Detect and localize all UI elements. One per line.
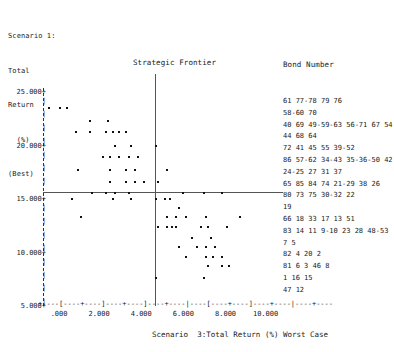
data-point: [66, 107, 68, 109]
data-point: [164, 198, 166, 200]
legend-row: 65 85 84 74 21-29 38 26: [283, 179, 393, 191]
x-axis-tick-labels: .000 2.000 4.000 6.000 8.000 10.000: [38, 310, 278, 318]
data-point: [125, 131, 127, 133]
data-point: [112, 198, 114, 200]
data-point: [102, 156, 104, 158]
data-point: [205, 216, 207, 218]
data-point: [112, 131, 114, 133]
x-axis-label: Scenario 3:Total Return (%) Worst Case: [152, 330, 328, 339]
data-point: [207, 226, 209, 228]
data-point: [203, 192, 205, 194]
data-point: [107, 120, 109, 122]
data-point: [118, 156, 120, 158]
y-axis-tick-label: 10.000+: [0, 249, 46, 257]
y-axis-minor-dash: |: [42, 204, 46, 212]
data-point: [221, 265, 223, 267]
y-axis-minor-dash: |: [42, 177, 46, 185]
data-point: [91, 192, 93, 194]
data-point: [157, 181, 159, 183]
legend-row: 66 18 33 17 13 51: [283, 214, 393, 226]
data-point: [109, 169, 111, 171]
legend-row: 19: [283, 202, 393, 214]
y-axis-minor-dash: |: [42, 124, 46, 132]
data-point: [114, 145, 116, 147]
data-point: [212, 256, 214, 258]
legend-row: 40 69 49-59-63 56-71 67 54: [283, 120, 393, 132]
data-point: [205, 256, 207, 258]
data-point: [155, 198, 157, 200]
y-axis-caption-line-3: Return: [8, 100, 55, 112]
data-point: [48, 107, 50, 109]
bond-number-legend-list: 61 77-78 79 7658-60 7040 69 49-59-63 56-…: [283, 96, 393, 297]
data-point: [171, 226, 173, 228]
data-point: [155, 145, 157, 147]
data-point: [59, 107, 61, 109]
y-axis-caption-line-2: Total: [8, 66, 55, 78]
data-point: [175, 216, 177, 218]
data-point: [71, 198, 73, 200]
data-point: [228, 265, 230, 267]
data-point: [118, 131, 120, 133]
data-point: [89, 120, 91, 122]
data-point: [130, 198, 132, 200]
data-point: [128, 156, 130, 158]
data-point: [182, 192, 184, 194]
scatter-plot-canvas: Scenario 1: Total Return (%) (Best) Stra…: [0, 0, 394, 352]
data-point: [166, 226, 168, 228]
data-point: [239, 216, 241, 218]
data-point: [207, 265, 209, 267]
x-axis-ruler: +----[----+----]----+----]----+----|----…: [38, 300, 333, 308]
legend-row: 82 4 20 2: [283, 249, 393, 261]
data-point: [214, 246, 216, 248]
y-axis-caption-line-1: Scenario 1:: [8, 31, 55, 43]
data-point: [157, 226, 159, 228]
y-axis-tick-label: 25.000+: [0, 88, 46, 96]
data-point: [191, 237, 193, 239]
y-axis-minor-dash: |: [42, 137, 46, 145]
legend-row: 47 12: [283, 285, 393, 297]
vertical-solid-reference-line: [155, 74, 156, 306]
plot-title: Strategic Frontier: [133, 58, 216, 67]
y-axis-minor-dash: |: [42, 271, 46, 279]
legend-row: 58-60 70: [283, 108, 393, 120]
data-point: [205, 246, 207, 248]
data-point: [210, 237, 212, 239]
data-point: [143, 181, 145, 183]
y-axis-caption: Scenario 1: Total Return (%) (Best): [8, 8, 55, 204]
data-point: [166, 216, 168, 218]
y-axis-tick-label: 15.000+: [0, 195, 46, 203]
data-point: [185, 256, 187, 258]
data-point: [169, 198, 171, 200]
legend-row: 7 5: [283, 238, 393, 250]
data-point: [221, 256, 223, 258]
data-point: [185, 216, 187, 218]
y-axis-minor-dash: |: [42, 164, 46, 172]
data-point: [130, 145, 132, 147]
data-point: [125, 181, 127, 183]
data-point: [175, 226, 177, 228]
horizontal-solid-reference-line: [43, 192, 283, 193]
data-point: [226, 226, 228, 228]
data-point: [155, 277, 157, 279]
legend-row: 81 6 3 46 8: [283, 261, 393, 273]
y-axis-minor-dash: |: [42, 97, 46, 105]
y-axis-minor-dash: |: [42, 151, 46, 159]
data-point: [105, 131, 107, 133]
y-axis-tick-label: 20.000+: [0, 142, 46, 150]
data-point: [109, 181, 111, 183]
data-point: [178, 207, 180, 209]
data-point: [166, 169, 168, 171]
y-axis-minor-dash: |: [42, 110, 46, 118]
data-point: [89, 131, 91, 133]
legend-row: 1 16 15: [283, 273, 393, 285]
legend-title: Bond Number: [283, 60, 334, 69]
data-point: [109, 156, 111, 158]
data-point: [125, 169, 127, 171]
data-point: [77, 169, 79, 171]
data-point: [134, 181, 136, 183]
legend-row: 80 73 75 30-32 22: [283, 190, 393, 202]
data-point: [196, 246, 198, 248]
data-point: [105, 192, 107, 194]
legend-row: 61 77-78 79 76: [283, 96, 393, 108]
data-point: [75, 131, 77, 133]
